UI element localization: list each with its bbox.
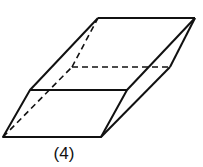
figure-canvas: (4) [0,0,203,167]
edge-c-e [30,18,98,90]
prism-drawing [0,0,203,167]
figure-label: (4) [44,144,84,164]
edge-d-f [127,18,195,90]
edge-h-f [170,18,195,67]
hidden-edge-a-g [3,67,72,137]
edge-b-h [101,67,170,137]
